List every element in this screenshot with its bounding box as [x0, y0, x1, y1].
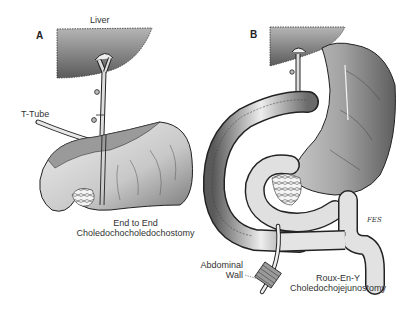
- abdominal-wall-label: Abdominal Wall: [190, 261, 243, 281]
- panel-b-letter: B: [250, 29, 257, 40]
- abdominal-wall-line2: Wall: [190, 271, 243, 281]
- t-tube-label: T-Tube: [21, 110, 49, 120]
- liver-label: Liver: [90, 16, 110, 26]
- panel-a-letter: A: [36, 30, 43, 41]
- panel-b-caption-line2: Choledochojejunostomy: [283, 284, 393, 294]
- panel-b-caption: Roux-En-Y Choledochojejunostomy: [283, 274, 393, 294]
- panel-a-caption-line2: Choledochocholedochostomy: [68, 229, 203, 239]
- artist-signature: FES: [366, 216, 382, 224]
- surgical-illustration: FES A Liver T-Tube End to End Choledocho…: [0, 0, 420, 316]
- panel-a-caption: End to End Choledochocholedochostomy: [68, 219, 203, 239]
- panel-b-drawing: FES: [212, 27, 396, 292]
- panel-a-drawing: [38, 28, 193, 211]
